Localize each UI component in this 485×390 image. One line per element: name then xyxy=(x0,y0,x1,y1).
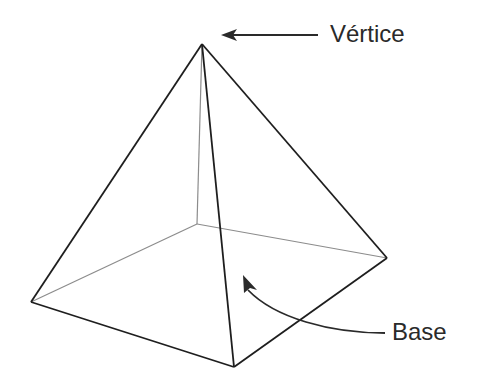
edge-front-right xyxy=(234,258,387,367)
vertex-arrow-icon xyxy=(221,29,318,41)
hidden-edges xyxy=(31,44,387,302)
edge-left-front xyxy=(31,302,234,367)
pyramid-diagram: Vértice Base xyxy=(0,0,485,390)
edge-back-right xyxy=(197,224,387,258)
edge-apex-right xyxy=(202,44,387,258)
base-label: Base xyxy=(392,320,447,344)
visible-edges xyxy=(31,44,387,367)
edge-apex-back xyxy=(197,44,202,224)
vertex-label: Vértice xyxy=(330,22,405,46)
edge-apex-left xyxy=(31,44,202,302)
base-arrow-icon xyxy=(243,275,385,333)
edge-apex-front xyxy=(202,44,234,367)
